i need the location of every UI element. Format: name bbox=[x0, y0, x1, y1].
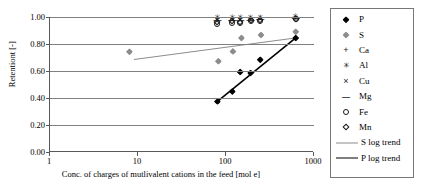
legend-marker-open-circle-icon bbox=[336, 105, 356, 119]
x-axis-ticks: 1101001000 bbox=[49, 152, 313, 168]
legend-marker-plus-icon: + bbox=[336, 43, 356, 57]
y-gridline bbox=[50, 125, 314, 126]
legend-label: S log trend bbox=[358, 138, 401, 147]
x-axis-tick-label: 10 bbox=[133, 157, 142, 166]
y-gridline bbox=[50, 71, 314, 72]
legend-marker-asterisk-icon: ✳ bbox=[336, 59, 356, 73]
legend-item-p[interactable]: P bbox=[331, 12, 413, 27]
chart-legend: PS+Ca✳Al×Cu—MgFeMnS log trendP log trend bbox=[330, 8, 414, 178]
legend-label: Mn bbox=[356, 123, 372, 132]
data-point-mn bbox=[248, 18, 253, 23]
y-axis-tick bbox=[46, 98, 50, 99]
data-point-s bbox=[215, 58, 222, 65]
data-point-s bbox=[238, 34, 245, 41]
legend-marker-cross-icon: × bbox=[336, 74, 356, 88]
legend-marker-dash-icon: — bbox=[336, 90, 356, 104]
data-point-layer: ++++++✳✳✳✳✳✳××××××—————— bbox=[50, 17, 314, 152]
legend-marker-filled-diamond-icon bbox=[336, 13, 356, 27]
legend-item-p-log-trend[interactable]: P log trend bbox=[331, 151, 413, 166]
y-gridline bbox=[50, 98, 314, 99]
y-axis-tick bbox=[46, 44, 50, 45]
y-axis-tick-label: 0.20 bbox=[4, 121, 45, 130]
legend-item-al[interactable]: ✳Al bbox=[331, 58, 413, 73]
legend-label: Ca bbox=[356, 46, 369, 55]
y-axis-tick bbox=[46, 125, 50, 126]
legend-label: P bbox=[356, 15, 364, 24]
legend-item-cu[interactable]: ×Cu bbox=[331, 74, 413, 89]
legend-label: Cu bbox=[356, 77, 370, 86]
y-gridline bbox=[50, 44, 314, 45]
y-gridline bbox=[50, 17, 314, 18]
data-point-s bbox=[229, 48, 236, 55]
data-point-s bbox=[292, 28, 299, 35]
chart-screenshot: 0.000.200.400.600.801.00 ++++++✳✳✳✳✳✳×××… bbox=[0, 0, 422, 193]
x-axis-tick-label: 1000 bbox=[305, 157, 322, 166]
data-point-s bbox=[126, 48, 133, 55]
legend-marker-filled-diamond-gray-icon bbox=[336, 28, 356, 42]
data-point-mn bbox=[215, 20, 220, 25]
x-axis-tick-label: 100 bbox=[219, 157, 232, 166]
legend-label: P log trend bbox=[358, 154, 400, 163]
chart-area: 0.000.200.400.600.801.00 ++++++✳✳✳✳✳✳×××… bbox=[0, 0, 322, 193]
y-axis-tick-label: 0.00 bbox=[4, 148, 45, 157]
legend-marker-line-black-icon bbox=[336, 151, 358, 165]
data-point-mn bbox=[230, 19, 235, 24]
data-point-p bbox=[229, 88, 236, 95]
y-axis-tick bbox=[46, 17, 50, 18]
data-point-mn bbox=[258, 17, 263, 22]
data-point-p bbox=[292, 34, 299, 41]
data-point-mn bbox=[238, 20, 243, 25]
legend-label: S bbox=[356, 31, 364, 40]
legend-label: Mg bbox=[356, 92, 372, 101]
legend-item-ca[interactable]: +Ca bbox=[331, 43, 413, 58]
y-axis-title: Retentiont [-] bbox=[8, 20, 17, 108]
legend-item-fe[interactable]: Fe bbox=[331, 104, 413, 119]
x-axis-tick-label: 1 bbox=[47, 157, 51, 166]
legend-item-mn[interactable]: Mn bbox=[331, 120, 413, 135]
legend-label: Fe bbox=[356, 108, 368, 117]
legend-marker-line-gray-icon bbox=[336, 136, 358, 150]
y-axis-tick bbox=[46, 71, 50, 72]
plot-frame: ++++++✳✳✳✳✳✳××××××—————— bbox=[49, 17, 313, 152]
legend-item-s-log-trend[interactable]: S log trend bbox=[331, 135, 413, 150]
legend-item-mg[interactable]: —Mg bbox=[331, 89, 413, 104]
legend-marker-open-diamond-icon bbox=[336, 120, 356, 134]
data-point-p bbox=[257, 56, 264, 63]
legend-label: Al bbox=[356, 61, 368, 70]
legend-item-s[interactable]: S bbox=[331, 27, 413, 42]
x-axis-title: Conc. of charges of mutlivalent cations … bbox=[0, 170, 322, 179]
data-point-s bbox=[258, 31, 265, 38]
